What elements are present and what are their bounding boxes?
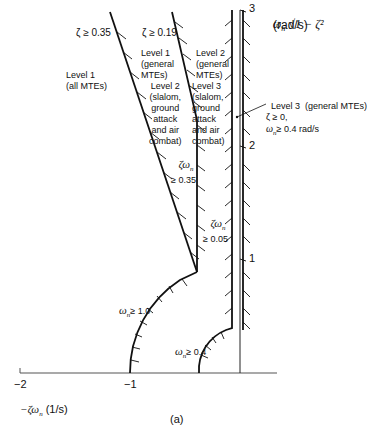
y-tick-2: 2 — [249, 139, 255, 151]
label-zetawn-035: ζωn≥ 0.35 — [171, 148, 196, 186]
y-tick-3: 3 — [249, 2, 255, 14]
region-level2-slalom: Level 2 (slalom, ground attack and air c… — [149, 81, 182, 147]
y-tick-1: 1 — [249, 252, 255, 264]
label-wn-04: ωn≥ 0.4 — [170, 335, 206, 362]
region-level1-all: Level 1 (all MTEs) — [66, 70, 107, 92]
region-level1-general: Level 1 (general MTEs) — [141, 48, 174, 81]
figure-caption: (a) — [170, 414, 183, 425]
label-zeta-035: ζ ≥ 0.35 — [76, 27, 111, 38]
x-tick-minus-1: −1 — [124, 378, 137, 390]
x-axis-label: −ζωn (1/s) — [14, 393, 68, 420]
leader-line — [237, 104, 266, 117]
label-zeta-019: ζ ≥ 0.19 — [142, 27, 177, 38]
y-axis-units: (rad/s) — [273, 20, 308, 31]
region-level3-slalom: Level 3 (slalom, ground attack and air c… — [192, 81, 225, 147]
region-level3-general: Level 3 (general MTEs)ζ ≥ 0,ωn≥ 0.4 rad/… — [266, 90, 367, 139]
x-tick-minus-2: −2 — [14, 378, 27, 390]
region-level2-general: Level 2 (general MTEs) — [196, 48, 229, 81]
boundary-zeta-0 — [243, 10, 250, 330]
label-zetawn-005: ζωn≥ 0.05 — [203, 207, 228, 245]
label-wn-10: ωn≥ 1.0 — [114, 294, 150, 321]
